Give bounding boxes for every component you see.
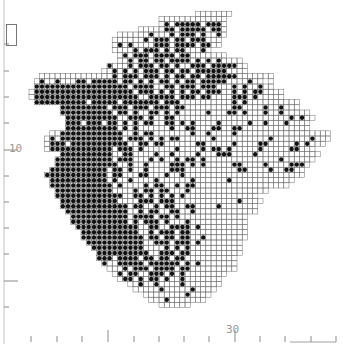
distribution-map: 10 30 bbox=[0, 0, 343, 344]
axis-label-10: 10 bbox=[9, 142, 22, 155]
grid-map-canvas bbox=[0, 0, 343, 344]
axis-label-30: 30 bbox=[226, 323, 239, 336]
inset-key-box bbox=[6, 24, 17, 46]
